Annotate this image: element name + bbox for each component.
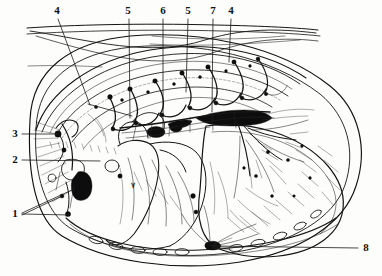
- anatomical-figure: ٧: [0, 0, 382, 276]
- label-7-top[interactable]: 7: [210, 4, 216, 16]
- label-1[interactable]: 1: [12, 207, 18, 219]
- label-5-second[interactable]: 5: [185, 4, 191, 16]
- label-3[interactable]: 3: [12, 127, 18, 139]
- label-5-first[interactable]: 5: [125, 4, 131, 16]
- label-2[interactable]: 2: [12, 153, 18, 165]
- label-4-left[interactable]: 4: [54, 4, 60, 16]
- anatomy-plate: ٧: [0, 0, 382, 276]
- label-4-right[interactable]: 4: [228, 4, 234, 16]
- label-6[interactable]: 6: [160, 4, 166, 16]
- label-8[interactable]: 8: [363, 241, 369, 253]
